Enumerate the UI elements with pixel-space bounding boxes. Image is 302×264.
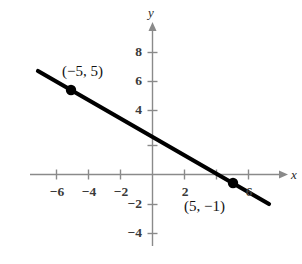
point-b-annotation: (5, −1) <box>184 199 225 214</box>
y-tick-label-8: 8 <box>122 45 142 59</box>
graph-figure: y x 8 6 4 −2 −4 −6 −4 −2 2 6 (−5, 5) (5,… <box>0 0 302 264</box>
coordinate-plane-svg <box>0 0 302 264</box>
x-tick-label-minus-2: −2 <box>108 185 134 199</box>
x-axis-arrowhead <box>279 171 288 179</box>
y-axis-arrowhead <box>149 22 157 31</box>
x-tick-label-minus-6: −6 <box>44 185 70 199</box>
y-axis-label: y <box>148 6 154 19</box>
y-tick-label-4: 4 <box>122 103 142 117</box>
y-tick-label-minus-4: −4 <box>114 226 142 240</box>
data-point-b <box>228 178 238 188</box>
data-point-a <box>66 85 76 95</box>
y-tick-label-6: 6 <box>122 74 142 88</box>
point-a-annotation: (−5, 5) <box>62 64 103 79</box>
x-tick-label-minus-4: −4 <box>76 185 102 199</box>
x-tick-label-2: 2 <box>175 185 195 199</box>
y-tick-label-minus-2: −2 <box>114 197 142 211</box>
x-tick-label-6: 6 <box>239 185 259 199</box>
x-axis-label: x <box>291 168 297 181</box>
